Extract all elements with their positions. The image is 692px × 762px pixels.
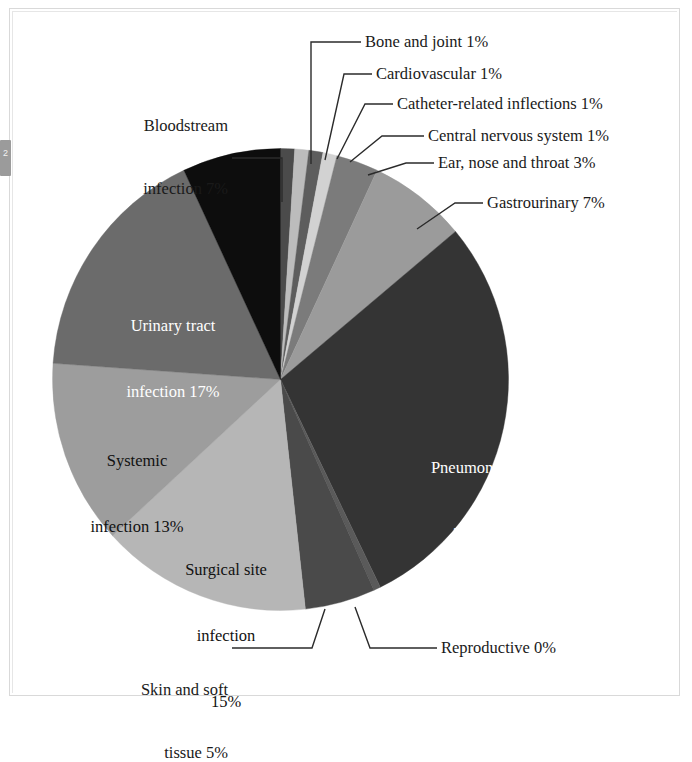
- slice-label-surgical-line3: 15%: [131, 691, 321, 713]
- callout-bone-and-joint: Bone and joint 1%: [365, 31, 488, 52]
- page-edge-tab: 2: [0, 140, 11, 176]
- callout-gastrourinary: Gastrourinary 7%: [487, 192, 605, 213]
- slice-label-pneumonia-line1: Pneumonia: [373, 457, 563, 479]
- callout-catheter-related: Catheter-related inflections 1%: [397, 93, 603, 114]
- slice-label-pneumonia: Pneumonia 29%: [373, 413, 563, 589]
- callout-bloodstream-line2: infection 7%: [30, 178, 228, 199]
- slice-label-urinary-line2: infection 17%: [78, 381, 268, 403]
- callout-central-nervous-system: Central nervous system 1%: [428, 125, 609, 146]
- page-edge-tab-label: 2: [0, 148, 11, 158]
- slice-label-urinary-line1: Urinary tract: [78, 315, 268, 337]
- slice-label-surgical-site-infection: Surgical site infection 15%: [131, 515, 321, 757]
- callout-cardiovascular: Cardiovascular 1%: [376, 63, 502, 84]
- callout-ear-nose-throat: Ear, nose and throat 3%: [438, 152, 595, 173]
- callout-reproductive: Reproductive 0%: [441, 637, 556, 658]
- slice-label-systemic-line1: Systemic: [42, 450, 232, 472]
- slice-label-surgical-line1: Surgical site: [131, 559, 321, 581]
- slice-label-pneumonia-line2: 29%: [373, 523, 563, 545]
- callout-bloodstream-line1: Bloodstream: [30, 115, 228, 136]
- slice-label-surgical-line2: infection: [131, 625, 321, 647]
- callout-bloodstream-infection: Bloodstream infection 7%: [30, 73, 228, 241]
